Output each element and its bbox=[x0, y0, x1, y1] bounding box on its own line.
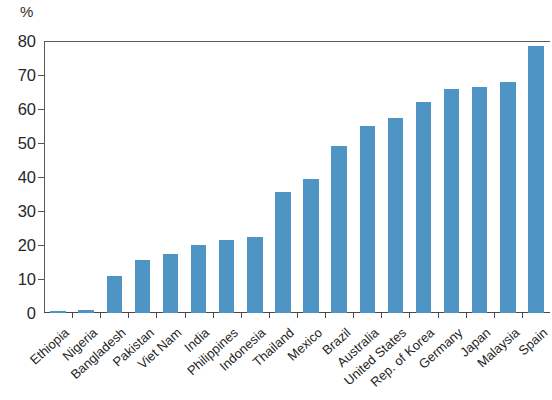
x-axis-tick bbox=[466, 313, 467, 318]
bar-chart: % 01020304050607080 EthiopiaNigeriaBangl… bbox=[0, 0, 552, 400]
y-axis-tick-label: 30 bbox=[0, 203, 36, 220]
y-axis-tick-label: 70 bbox=[0, 67, 36, 84]
x-axis-tick bbox=[325, 313, 326, 318]
x-axis-tick bbox=[100, 313, 101, 318]
bar bbox=[416, 102, 431, 313]
bar bbox=[78, 310, 93, 313]
x-axis-tick bbox=[438, 313, 439, 318]
y-axis-tick bbox=[38, 177, 44, 178]
x-axis-tick bbox=[185, 313, 186, 318]
bar bbox=[191, 245, 206, 313]
bar bbox=[500, 82, 515, 313]
bar bbox=[331, 146, 346, 313]
y-axis-unit-label: % bbox=[20, 3, 34, 20]
bar bbox=[528, 46, 543, 313]
bar bbox=[107, 276, 122, 313]
y-axis-tick-label: 10 bbox=[0, 271, 36, 288]
y-axis-tick bbox=[38, 279, 44, 280]
y-axis-tick-label: 0 bbox=[0, 305, 36, 322]
y-axis-tick-label: 60 bbox=[0, 101, 36, 118]
x-axis-category-label: Spain bbox=[516, 326, 549, 358]
bar bbox=[275, 192, 290, 313]
x-axis-tick bbox=[381, 313, 382, 318]
x-axis-tick bbox=[522, 313, 523, 318]
bar bbox=[135, 260, 150, 313]
y-axis-tick-label: 40 bbox=[0, 169, 36, 186]
bar bbox=[50, 311, 65, 313]
x-axis-tick bbox=[72, 313, 73, 318]
x-axis-tick bbox=[353, 313, 354, 318]
bar bbox=[388, 118, 403, 314]
bar bbox=[444, 89, 459, 313]
y-axis-tick-label: 80 bbox=[0, 33, 36, 50]
x-axis-tick bbox=[213, 313, 214, 318]
y-axis-tick bbox=[38, 143, 44, 144]
y-axis-tick-label: 50 bbox=[0, 135, 36, 152]
bar bbox=[163, 254, 178, 314]
x-axis-tick bbox=[297, 313, 298, 318]
bar bbox=[360, 126, 375, 313]
y-axis-tick bbox=[38, 211, 44, 212]
y-axis-tick bbox=[38, 245, 44, 246]
x-axis-tick bbox=[409, 313, 410, 318]
x-axis-tick bbox=[156, 313, 157, 318]
x-axis-tick bbox=[128, 313, 129, 318]
bar bbox=[219, 240, 234, 313]
x-axis-tick bbox=[494, 313, 495, 318]
x-axis-tick bbox=[269, 313, 270, 318]
bar bbox=[303, 179, 318, 313]
x-axis-tick bbox=[241, 313, 242, 318]
bar bbox=[472, 87, 487, 313]
bar bbox=[247, 237, 262, 314]
y-axis-tick bbox=[38, 75, 44, 76]
y-axis-tick bbox=[38, 109, 44, 110]
y-axis-tick-label: 20 bbox=[0, 237, 36, 254]
